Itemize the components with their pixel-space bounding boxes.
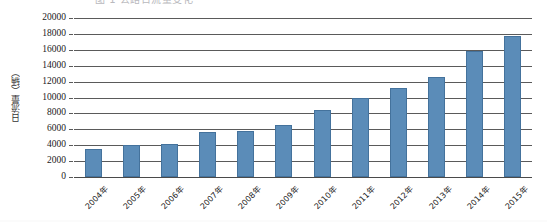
x-axis-tick-label: 2005年 [122, 185, 148, 211]
y-axis-tick-mark [69, 50, 73, 51]
bar [161, 144, 178, 177]
x-axis-tick-label: 2008年 [236, 185, 262, 211]
y-axis-tick-label: 8000 [18, 108, 66, 118]
y-axis-tick-mark [69, 113, 73, 114]
x-axis-tick-label: 2004年 [84, 185, 110, 211]
x-axis-tick-label: 2010年 [313, 185, 339, 211]
gridline [74, 129, 532, 130]
y-axis-tick-label: 16000 [18, 45, 66, 55]
bar-chart-figure: 图 1 公路日流量变化 日流量（辆） 020004000600080001000… [0, 0, 547, 222]
gridline [74, 50, 532, 51]
y-axis-tick-mark [69, 18, 73, 19]
plot-area [74, 18, 532, 177]
bar [504, 36, 521, 178]
y-axis-tick-label: 0 [18, 172, 66, 182]
y-axis-tick-mark [69, 82, 73, 83]
y-axis-tick-label: 12000 [18, 77, 66, 87]
gridline [74, 113, 532, 114]
scan-edge [0, 220, 547, 222]
y-axis-tick-mark [69, 129, 73, 130]
clipped-title-strip: 图 1 公路日流量变化 [0, 0, 547, 9]
bar [390, 88, 407, 177]
y-axis-tick-mark [69, 145, 73, 146]
figure-title: 图 1 公路日流量变化 [95, 0, 193, 6]
x-axis-tick-label: 2013年 [427, 185, 453, 211]
x-axis-tick-label: 2015年 [503, 185, 529, 211]
y-axis-tick-label: 2000 [18, 156, 66, 166]
gridline [74, 161, 532, 162]
bar [466, 51, 483, 177]
x-axis-tick-label: 2006年 [160, 185, 186, 211]
y-axis-tick-mark [69, 161, 73, 162]
bar [352, 98, 369, 177]
gridline [74, 145, 532, 146]
y-axis-tick-label: 20000 [18, 13, 66, 23]
bar [237, 131, 254, 177]
y-axis-tick-mark [69, 66, 73, 67]
gridline [74, 34, 532, 35]
y-axis-tick-mark [69, 34, 73, 35]
x-axis-labels: 2004年2005年2006年2007年2008年2009年2010年2011年… [74, 178, 532, 222]
x-axis-tick-label: 2012年 [389, 185, 415, 211]
gridline [74, 98, 532, 99]
y-axis-tick-mark [69, 177, 73, 178]
y-axis-tick-label: 14000 [18, 61, 66, 71]
bar [85, 149, 102, 177]
y-axis-tick-label: 18000 [18, 29, 66, 39]
y-axis-tick-label: 10000 [18, 93, 66, 103]
x-axis-tick-label: 2007年 [198, 185, 224, 211]
bar [428, 77, 445, 177]
x-axis-tick-label: 2011年 [351, 185, 377, 211]
y-axis-tick-label: 6000 [18, 124, 66, 134]
y-axis-tick-mark [69, 98, 73, 99]
x-axis-tick-label: 2014年 [465, 185, 491, 211]
gridline [74, 66, 532, 67]
bar [199, 132, 216, 177]
bar [123, 145, 140, 177]
gridline [74, 82, 532, 83]
bar [314, 110, 331, 177]
gridline [74, 18, 532, 19]
x-axis-tick-label: 2009年 [274, 185, 300, 211]
y-axis-tick-label: 4000 [18, 140, 66, 150]
bar [275, 125, 292, 177]
